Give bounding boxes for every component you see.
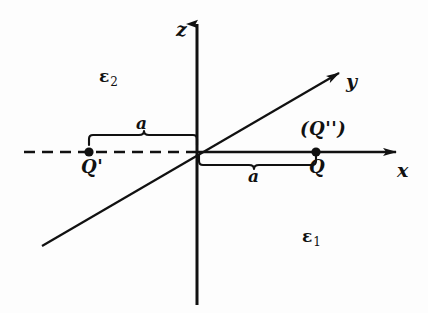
epsilon-symbol-upper: ε [99, 66, 109, 86]
upper-medium-label: ε2 [99, 68, 118, 88]
right-distance-label: a [248, 168, 259, 185]
diagram-canvas [0, 0, 428, 313]
epsilon-symbol-lower: ε [302, 226, 312, 246]
left-distance-label: a [136, 115, 147, 132]
real-charge-label: Q [309, 158, 325, 176]
epsilon-subscript-lower: 1 [313, 235, 321, 249]
image-charge-label: Q' [81, 158, 103, 176]
z-axis-label: z [176, 20, 187, 39]
secondary-image-charge-label: (Q'') [300, 120, 346, 138]
lower-medium-label: ε1 [302, 228, 321, 248]
left-distance-brace [89, 131, 197, 145]
x-axis-label: x [397, 161, 408, 180]
y-axis-label: y [346, 72, 357, 91]
epsilon-subscript-upper: 2 [110, 75, 118, 89]
physics-diagram-figure: z x y ε2 ε1 Q' Q (Q'') a a [0, 0, 428, 313]
